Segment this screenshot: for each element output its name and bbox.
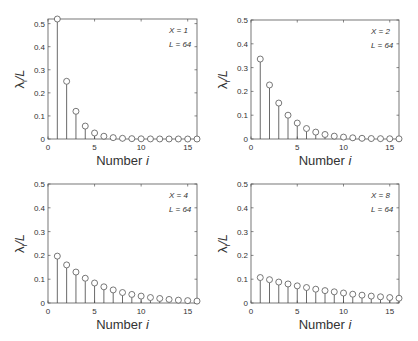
stem-marker — [166, 296, 172, 302]
panel-3: 00.10.20.30.40.5051015X = 4L = 64Number … — [12, 180, 200, 332]
x-tick-label: 15 — [385, 143, 394, 152]
stem-marker — [267, 277, 273, 283]
stem-marker — [92, 280, 98, 286]
stem-marker — [331, 133, 337, 139]
y-tick-label: 0.3 — [237, 228, 249, 237]
stem-marker — [350, 135, 356, 141]
stem-marker — [129, 136, 135, 142]
annotation-text: X = 4 — [168, 191, 188, 200]
y-tick-label: 0.5 — [34, 180, 46, 189]
y-tick-label: 0.3 — [34, 228, 46, 237]
stem-marker — [54, 253, 60, 259]
stem-marker — [64, 262, 70, 268]
x-tick-label: 15 — [385, 307, 394, 316]
x-tick-label: 0 — [46, 143, 51, 152]
stem-marker — [387, 136, 393, 142]
stem-marker — [194, 136, 200, 142]
stem-marker — [257, 56, 263, 62]
stem-marker — [194, 298, 200, 304]
stem-marker — [322, 131, 328, 137]
annotation-text: X = 8 — [370, 191, 390, 200]
y-tick-label: 0.2 — [237, 251, 249, 260]
x-tick-label: 5 — [295, 307, 300, 316]
stem-marker — [82, 275, 88, 281]
stem-marker — [185, 136, 191, 142]
stem-marker — [157, 136, 163, 142]
stem-marker — [368, 293, 374, 299]
stem-marker — [175, 297, 181, 303]
stem-marker — [276, 279, 282, 285]
stem-marker — [166, 136, 172, 142]
y-tick-label: 0.3 — [237, 64, 249, 73]
stem-marker — [368, 136, 374, 142]
stem-marker — [304, 285, 310, 291]
stem-marker — [64, 78, 70, 84]
y-tick-label: 0.4 — [34, 43, 46, 52]
y-tick-label: 0.1 — [237, 275, 249, 284]
stem-marker — [313, 286, 319, 292]
stem-marker — [350, 291, 356, 297]
stem-marker — [304, 126, 310, 132]
stem-marker — [73, 269, 79, 275]
x-tick-label: 5 — [92, 143, 97, 152]
x-tick-label: 5 — [295, 143, 300, 152]
x-axis-label: Number i — [299, 153, 353, 168]
y-tick-label: 0.4 — [237, 40, 249, 49]
y-axis-label: λi/L — [215, 234, 232, 253]
stem-marker — [138, 293, 144, 299]
stem-marker — [120, 135, 126, 141]
y-tick-label: 0.2 — [237, 87, 249, 96]
stem-marker — [101, 133, 107, 139]
stem-marker — [129, 291, 135, 297]
y-axis-label: λi/L — [12, 234, 29, 253]
stem-marker — [147, 295, 153, 301]
stem-marker — [147, 136, 153, 142]
stem-marker — [110, 287, 116, 293]
annotation-text: L = 64 — [371, 205, 394, 214]
annotation-text: L = 64 — [169, 40, 192, 49]
y-tick-label: 0.1 — [237, 111, 249, 120]
x-tick-label: 0 — [46, 307, 51, 316]
stem-marker — [378, 136, 384, 142]
stem-marker — [276, 100, 282, 106]
y-axis-label: λi/L — [12, 69, 29, 88]
stem-marker — [378, 294, 384, 300]
panel-1: 00.10.20.30.40.5051015X = 1L = 64Number … — [12, 16, 200, 168]
axes-box — [48, 19, 197, 139]
x-tick-label: 10 — [339, 143, 348, 152]
y-tick-label: 0.5 — [237, 16, 249, 25]
stem-marker — [73, 108, 79, 114]
stem-marker — [175, 136, 181, 142]
y-tick-label: 0.2 — [34, 89, 46, 98]
stem-marker — [110, 135, 116, 141]
x-tick-label: 0 — [249, 143, 254, 152]
stem-marker — [157, 295, 163, 301]
x-tick-label: 0 — [249, 307, 254, 316]
annotation-text: X = 2 — [370, 27, 390, 36]
stem-marker — [359, 292, 365, 298]
stem-marker — [285, 112, 291, 118]
stem-marker — [120, 290, 126, 296]
x-axis-label: Number i — [299, 317, 353, 332]
x-tick-label: 10 — [137, 307, 146, 316]
x-tick-label: 5 — [92, 307, 97, 316]
axes-box — [48, 184, 197, 303]
stem-marker — [267, 82, 273, 88]
stem-marker — [294, 120, 300, 126]
stem-marker — [331, 289, 337, 295]
y-tick-label: 0.4 — [237, 204, 249, 213]
y-tick-label: 0.4 — [34, 204, 46, 213]
stem-marker — [54, 16, 60, 22]
stem-marker — [322, 288, 328, 294]
stem-marker — [387, 295, 393, 301]
annotation-text: X = 1 — [168, 26, 188, 35]
panel-2: 00.10.20.30.40.5051015X = 2L = 64Number … — [215, 16, 402, 168]
stem-marker — [341, 134, 347, 140]
x-tick-label: 10 — [137, 143, 146, 152]
y-tick-label: 0.2 — [34, 251, 46, 260]
y-tick-label: 0.5 — [237, 180, 249, 189]
stem-marker — [82, 123, 88, 129]
y-tick-label: 0.5 — [34, 20, 46, 29]
y-axis-label: λi/L — [215, 70, 232, 89]
x-tick-label: 15 — [183, 307, 192, 316]
